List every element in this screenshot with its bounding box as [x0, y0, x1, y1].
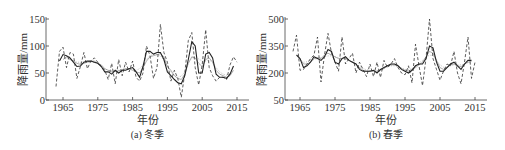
y-axis-label-spring: 降雨量/mm	[255, 32, 268, 86]
series-annual	[293, 19, 475, 86]
x-tick-label: 1995	[157, 102, 178, 113]
caption-spring: (b) 春季	[369, 129, 403, 141]
x-tick-label: 1975	[325, 102, 346, 113]
y-tick-label: 200	[268, 68, 284, 79]
y-tick-label: 50	[35, 68, 46, 79]
y-axis-label-winter: 降雨量/mm	[16, 32, 29, 86]
x-tick-label: 2005	[430, 102, 451, 113]
x-tick-label: 1995	[395, 102, 416, 113]
x-tick-label: 1985	[122, 102, 143, 113]
y-tick-label: 500	[268, 14, 284, 25]
x-axis-label-winter: 年份	[137, 113, 159, 126]
plot-area-winter	[56, 24, 237, 97]
figure-svg: 050100150196519751985199520052015 降雨量/mm…	[0, 0, 505, 150]
y-tick-label: 150	[29, 14, 45, 25]
chart-panel-spring: 50200350500196519751985199520052015 降雨量/…	[255, 14, 487, 142]
x-axis-label-spring: 年份	[375, 113, 397, 126]
y-tick-label: 50	[274, 95, 285, 106]
axes-winter: 050100150196519751985199520052015	[29, 14, 249, 114]
chart-panel-winter: 050100150196519751985199520052015 降雨量/mm…	[16, 14, 249, 142]
y-tick-label: 350	[268, 41, 284, 52]
y-tick-label: 100	[29, 41, 45, 52]
x-tick-label: 1965	[290, 102, 311, 113]
x-tick-label: 1965	[53, 102, 74, 113]
plot-area-spring	[293, 19, 475, 86]
y-tick-label: 0	[40, 95, 45, 106]
caption-winter: (a) 冬季	[131, 128, 165, 141]
figure: 050100150196519751985199520052015 降雨量/mm…	[0, 0, 505, 150]
axes-spring: 50200350500196519751985199520052015	[268, 14, 487, 114]
x-tick-label: 1975	[87, 102, 108, 113]
x-tick-label: 2005	[192, 102, 213, 113]
x-tick-label: 2015	[227, 102, 248, 113]
x-tick-label: 1985	[360, 102, 381, 113]
x-tick-label: 2015	[465, 102, 486, 113]
